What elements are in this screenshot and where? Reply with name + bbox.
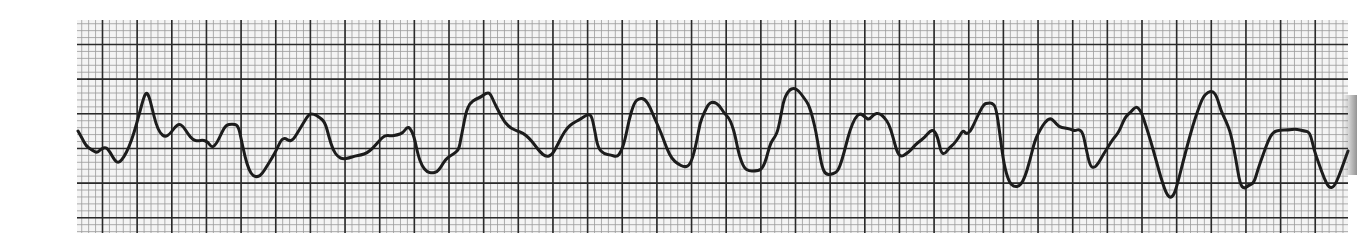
page-edge-shadow [1343,95,1357,175]
ecg-strip [0,0,1357,241]
